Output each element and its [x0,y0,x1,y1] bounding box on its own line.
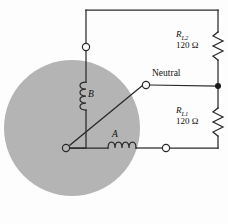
resistor-rl2-zigzag [213,32,223,60]
label-rl1-value: 120 Ω [176,117,198,127]
label-rl2-value: 120 Ω [176,41,198,51]
label-coil-a: A [112,129,118,139]
label-resistor-rl1: RL1 120 Ω [176,106,198,127]
terminal-bottom-right[interactable] [162,144,169,151]
terminal-top-left[interactable] [82,43,89,50]
junction-right-rail [215,83,221,89]
resistor-rl1-zigzag [213,108,223,136]
label-resistor-rl2: RL2 120 Ω [176,30,198,51]
wire-neutral [150,85,218,86]
figure-canvas: Neutral RL2 120 Ω RL1 120 Ω A B [0,0,228,224]
terminal-neutral[interactable] [142,81,149,88]
node-center[interactable] [62,144,69,151]
label-neutral: Neutral [152,68,181,78]
label-coil-b: B [88,89,94,99]
transformer-core-disc [4,60,140,196]
